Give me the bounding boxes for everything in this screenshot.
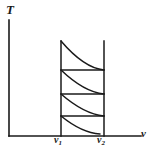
t-v-diagram-figure: T v v1 v2 xyxy=(0,0,152,149)
y-axis-label: T xyxy=(6,3,14,16)
expansion-curve-2 xyxy=(61,70,104,94)
plot-canvas xyxy=(0,0,152,149)
v2-subscript: 2 xyxy=(101,139,105,147)
expansion-curve-4 xyxy=(61,116,100,134)
x-tick-label-v1: v1 xyxy=(54,135,62,147)
x-axis-label: v xyxy=(141,128,146,139)
x-tick-label-v2: v2 xyxy=(97,135,105,147)
v1-subscript: 1 xyxy=(58,139,62,147)
expansion-curve-1 xyxy=(61,41,104,70)
expansion-curve-3 xyxy=(61,94,104,116)
